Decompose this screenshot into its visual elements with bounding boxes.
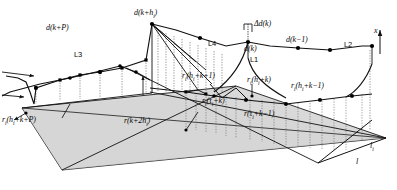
label-r-hi-k-P: ri(hi+k+P) — [2, 116, 36, 126]
label-x-axis: x — [374, 27, 377, 35]
label-d-k-plus-hi: d(k+hi) — [134, 9, 157, 19]
delta-d-bracket — [244, 24, 252, 42]
label-d-k-plus-P: d(k+P) — [46, 24, 69, 32]
label-r-k-2hi: r(k+2hi) — [124, 117, 150, 127]
label-L1: L1 — [250, 56, 258, 64]
label-r-tau-k-minus-1: r(τi+k−1) — [244, 110, 274, 120]
label-L4: L4 — [208, 40, 216, 48]
label-d-k-minus-1: d(k−1) — [286, 36, 308, 44]
label-d-k: d(k) — [244, 45, 257, 53]
label-r-hi-k-minus-1: ri(hi+k−1) — [291, 82, 324, 92]
label-L2: L2 — [344, 41, 352, 49]
label-l-axis: l — [356, 158, 358, 166]
label-delta-d-k: Δd(k) — [254, 20, 271, 28]
label-r-hi-k-plus-1: ri(hi+k+1) — [182, 72, 215, 82]
label-L3: L3 — [74, 51, 82, 59]
figure-canvas: d(k+P) d(k+hi) Δd(k) d(k) d(k−1) L3 L4 L… — [0, 0, 397, 190]
label-r-hi-k: ri(hi+k) — [247, 76, 271, 86]
trace-L3 — [6, 24, 152, 104]
label-li-axis: li — [370, 142, 374, 152]
label-r-tau-k: ri(τi+k) — [202, 97, 225, 107]
